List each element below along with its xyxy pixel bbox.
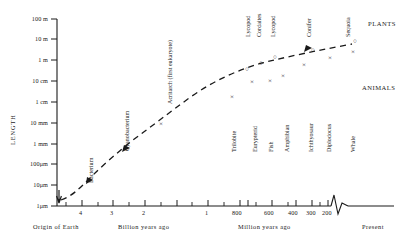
point-label-whale: Whale bbox=[350, 136, 356, 152]
x-tick-label-600: 600 bbox=[264, 210, 274, 216]
origin-of-earth-label: Origin of Earth bbox=[33, 224, 79, 230]
marker-fish: × bbox=[268, 78, 272, 85]
marker-lycopod-2: ○ bbox=[273, 54, 277, 60]
x-tick-label-3: 3 bbox=[110, 210, 113, 216]
y-tick-label-1mm: 1 mm bbox=[16, 141, 48, 147]
x-tick-label-800: 800 bbox=[232, 210, 242, 216]
y-tick-label-100m: 100 m bbox=[16, 16, 48, 22]
marker-sequoia: ○ bbox=[353, 38, 357, 44]
point-label-eurypterid: Eurypterid bbox=[252, 126, 258, 152]
x-axis-title-billion: Billion years ago bbox=[118, 224, 169, 230]
y-tick-label-1um: 1μm bbox=[16, 203, 48, 209]
x-tick-label-300: 300 bbox=[306, 210, 316, 216]
plants-group-label: PLANTS bbox=[368, 21, 396, 28]
animals-group-label: ANIMALS bbox=[362, 85, 396, 92]
point-label-cyanobacterium: Cyanobacterium bbox=[124, 111, 130, 151]
point-label-fish: Fish bbox=[268, 141, 274, 152]
y-tick-label-100um: 100μm bbox=[16, 161, 48, 167]
x-axis-title-million: Million years ago bbox=[238, 224, 291, 230]
point-label-lycopod-1: Lycopod bbox=[245, 16, 251, 37]
x-tick-label-400: 400 bbox=[288, 210, 298, 216]
y-tick-label-1m: 1 m bbox=[16, 57, 48, 63]
axis-break-icon bbox=[331, 195, 348, 214]
point-label-trilobite: Trilobite bbox=[231, 131, 237, 152]
x-axis-minor-ticks bbox=[66, 202, 320, 206]
y-tick-label-10m: 10 m bbox=[16, 36, 48, 42]
marker-amphibian: × bbox=[281, 73, 285, 80]
x-tick-label-2: 2 bbox=[142, 210, 145, 216]
marker-acritarch: × bbox=[159, 121, 163, 128]
y-tick-label-1cm: 1 cm bbox=[16, 99, 48, 105]
marker-lycopod-1: ○ bbox=[245, 66, 249, 72]
marker-whale: × bbox=[351, 49, 355, 56]
point-label-diplodocus: Diplodocus bbox=[326, 124, 332, 152]
point-label-bacterium: Bacterium bbox=[88, 158, 94, 183]
marker-ichthyosaur: × bbox=[302, 62, 306, 69]
point-label-cordaites: Cordaites bbox=[256, 14, 262, 37]
marker-diplodocus: × bbox=[328, 55, 332, 62]
present-label: Present bbox=[362, 224, 384, 230]
x-tick-label-200: 200 bbox=[322, 210, 332, 216]
x-tick-label-1: 1 bbox=[205, 210, 208, 216]
marker-conifer: ○ bbox=[311, 47, 315, 53]
y-tick-label-10cm: 10 cm bbox=[16, 78, 48, 84]
point-label-amphibian: Amphibian bbox=[284, 125, 290, 152]
y-tick-label-10mm: 10 mm bbox=[16, 120, 48, 126]
point-label-acritarch: Acritarch (first eukaryote) bbox=[167, 40, 173, 104]
marker-eurypterid: × bbox=[250, 79, 254, 86]
y-tick-label-10um: 10μm bbox=[16, 182, 48, 188]
y-axis-ticks bbox=[51, 19, 57, 206]
point-label-sequoia: Sequoia bbox=[345, 17, 351, 37]
marker-trilobite: × bbox=[230, 94, 234, 101]
y-axis-title: LENGTH bbox=[10, 114, 16, 145]
x-tick-label-4: 4 bbox=[79, 210, 82, 216]
trend-curve bbox=[61, 44, 352, 200]
point-label-conifer: Conifer bbox=[306, 18, 312, 37]
evolution-size-chart: 100 m 10 m 1 m 10 cm 1 cm 10 mm 1 mm 100… bbox=[0, 0, 405, 245]
marker-cordaites: ○ bbox=[259, 60, 263, 66]
point-label-ichthyosaur: Ichthyosaur bbox=[308, 123, 314, 152]
point-label-lycopod-2: Lycopod bbox=[270, 16, 276, 37]
